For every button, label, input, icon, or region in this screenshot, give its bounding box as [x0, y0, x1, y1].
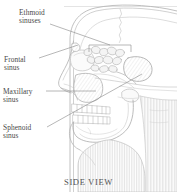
label-frontal: Frontal sinus	[4, 56, 26, 73]
mandibular-condyle	[122, 89, 139, 102]
sphenoid-sinus-shading	[124, 57, 152, 82]
frontal-sinus-shading	[71, 43, 79, 52]
label-maxillary: Maxillary sinus	[3, 88, 33, 105]
figure-caption: SIDE VIEW	[0, 177, 177, 187]
label-maxillary-line2: sinus	[3, 96, 33, 104]
label-sphenoid: Sphenoid sinus	[3, 124, 31, 141]
label-frontal-line2: sinus	[4, 64, 26, 72]
label-ethmoid: Ethmoid sinuses	[19, 9, 45, 26]
label-sphenoid-line2: sinus	[3, 132, 31, 140]
sinus-anatomy-figure: Ethmoid sinuses Frontal sinus Maxillary …	[0, 0, 177, 192]
label-ethmoid-line2: sinuses	[19, 17, 45, 25]
